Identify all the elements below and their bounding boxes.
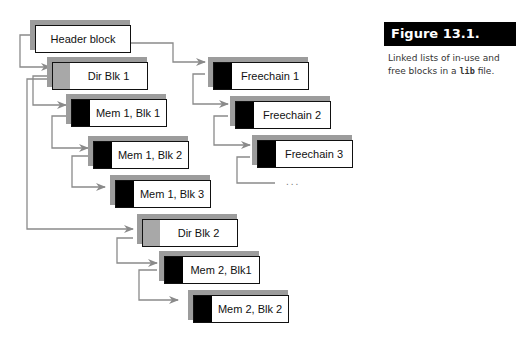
mem1-block3-label: Mem 1, Blk 3 <box>134 188 210 200</box>
freechain-1-label: Freechain 1 <box>232 70 308 82</box>
member-marker <box>194 296 212 322</box>
figure-caption: Linked lists of in-use and free blocks i… <box>388 52 516 78</box>
dir-block-2-label: Dir Blk 2 <box>160 227 237 239</box>
continuation-ellipsis: ... <box>286 176 300 187</box>
directory-marker <box>143 220 160 246</box>
mem1-block1-label: Mem 1, Blk 1 <box>90 107 166 119</box>
dir-block-1-label: Dir Blk 1 <box>70 70 147 82</box>
member-marker <box>94 142 112 168</box>
header-block-label: Header block <box>36 33 130 45</box>
mem2-block2-label: Mem 2, Blk 2 <box>212 303 288 315</box>
free-marker <box>214 63 232 89</box>
caption-text-end: file. <box>475 66 494 76</box>
mem2-block1-label: Mem 2, Blk1 <box>183 264 259 276</box>
member-marker <box>116 181 134 207</box>
mem1-block2-label: Mem 1, Blk 2 <box>112 149 188 161</box>
free-marker <box>236 102 254 128</box>
figure-title: Figure 13.1. <box>384 22 516 46</box>
member-marker <box>165 257 183 283</box>
caption-code: lib <box>459 66 474 76</box>
directory-marker <box>53 63 70 89</box>
member-marker <box>72 100 90 126</box>
freechain-3-label: Freechain 3 <box>276 148 352 160</box>
free-marker <box>258 141 276 167</box>
freechain-2-label: Freechain 2 <box>254 109 330 121</box>
